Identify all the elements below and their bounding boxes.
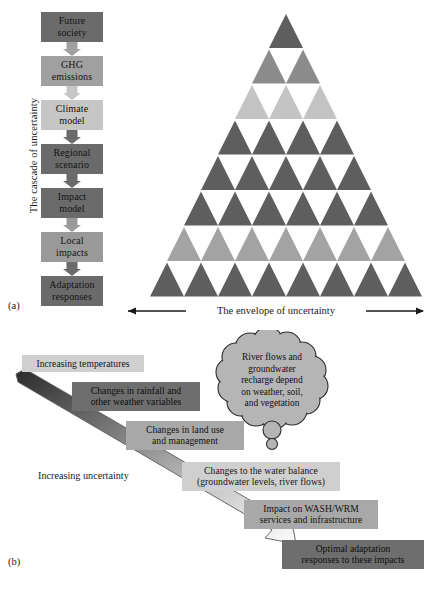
cascade-box-line1: Future xyxy=(42,15,102,27)
cascade-box-line2: emissions xyxy=(42,71,102,83)
panel-a: The cascade of uncertainty Futuresociety… xyxy=(0,0,434,330)
cascade-box-adaptation-responses: Adaptationresponses xyxy=(41,276,103,306)
cascade-box-line1: Impact xyxy=(42,191,102,203)
cascade-down-arrow-icon xyxy=(41,42,103,56)
impact-box-line2: services and infrastructure xyxy=(249,514,373,526)
impact-box-optimal-adaptation: Optimal adaptationresponses to these imp… xyxy=(282,540,424,569)
pyramid-triangle-up xyxy=(252,121,286,155)
pyramid-triangle-up xyxy=(235,156,269,190)
increasing-uncertainty-label: Increasing uncertainty xyxy=(38,470,129,481)
pyramid-triangle-up xyxy=(269,85,303,119)
impact-box-impact-wash-wrm: Impact on WASH/WRMservices and infrastru… xyxy=(244,500,378,529)
pyramid-triangle-up xyxy=(303,85,337,119)
pyramid-triangle-up xyxy=(184,263,218,297)
pyramid-triangle-up xyxy=(150,263,184,297)
thought-cloud-text: River flows andgroundwaterrecharge depen… xyxy=(241,352,303,408)
pyramid-row xyxy=(184,192,388,226)
pyramid-triangle-up xyxy=(337,156,371,190)
cascade-box-line2: model xyxy=(42,203,102,215)
cascade-down-arrow-icon xyxy=(41,174,103,188)
pyramid-triangle-up xyxy=(337,227,371,261)
cascade-box-line2: scenario xyxy=(42,159,102,171)
cascade-axis-label: The cascade of uncertainty xyxy=(28,76,39,236)
thought-cloud-line: and vegetation xyxy=(245,398,300,408)
impact-box-line2: (groundwater levels, river flows) xyxy=(187,476,335,488)
cascade-down-arrow-icon xyxy=(41,262,103,276)
cascade-down-arrow-icon xyxy=(41,218,103,232)
cascade-box-line1: Local xyxy=(42,235,102,247)
impact-box-line1: Changes in land use xyxy=(131,424,239,436)
envelope-axis: The envelope of uncertainty xyxy=(126,303,426,319)
pyramid-triangle-up xyxy=(218,121,252,155)
pyramid-row xyxy=(218,121,354,155)
pyramid-triangle-up xyxy=(252,192,286,226)
pyramid-triangle-up xyxy=(269,227,303,261)
pyramid-triangle-up xyxy=(184,192,218,226)
pyramid-row xyxy=(167,227,405,261)
pyramid-triangle-up xyxy=(252,263,286,297)
thought-cloud-line: River flows and xyxy=(242,352,302,362)
cascade-down-arrow-icon xyxy=(41,86,103,100)
pyramid-triangle-up xyxy=(388,263,422,297)
cascade-box-line2: society xyxy=(42,27,102,39)
figure-label-a: (a) xyxy=(8,300,20,311)
pyramid-row xyxy=(269,14,303,48)
impact-box-line1: Increasing temperatures xyxy=(27,358,139,370)
figure-label-b: (b) xyxy=(8,556,20,567)
envelope-axis-label: The envelope of uncertainty xyxy=(126,303,426,319)
impact-box-changes-rainfall: Changes in rainfall andother weather var… xyxy=(72,382,200,411)
pyramid-triangle-up xyxy=(286,192,320,226)
cascade-box-line2: responses xyxy=(42,291,102,303)
pyramid-triangle-up xyxy=(320,121,354,155)
impact-box-line1: Optimal adaptation xyxy=(287,543,419,555)
pyramid-row xyxy=(150,263,422,297)
pyramid-triangle-up xyxy=(303,227,337,261)
pyramid-triangle-up xyxy=(201,227,235,261)
impact-box-line1: Changes in rainfall and xyxy=(77,385,195,397)
envelope-of-uncertainty-pyramid xyxy=(150,14,422,298)
cascade-box-local-impacts: Localimpacts xyxy=(41,232,103,262)
impact-box-changes-land-use: Changes in land useand management xyxy=(126,421,244,450)
cascade-box-impact-model: Impactmodel xyxy=(41,188,103,218)
pyramid-svg xyxy=(150,14,422,298)
cascade-box-line1: Climate xyxy=(42,103,102,115)
cascade-box-climate-model: Climatemodel xyxy=(41,100,103,130)
pyramid-triangle-up xyxy=(354,192,388,226)
cascade-box-ghg-emissions: GHGemissions xyxy=(41,56,103,86)
cascade-box-future-society: Futuresociety xyxy=(41,12,103,42)
pyramid-triangle-up xyxy=(235,85,269,119)
pyramid-triangle-up xyxy=(320,192,354,226)
cascade-box-line2: impacts xyxy=(42,247,102,259)
pyramid-triangle-up xyxy=(252,50,286,84)
pyramid-row xyxy=(252,50,320,84)
pyramid-triangle-up xyxy=(286,263,320,297)
cascade-box-regional-scenario: Regionalscenario xyxy=(41,144,103,174)
pyramid-row xyxy=(201,156,371,190)
cascade-box-line1: Regional xyxy=(42,147,102,159)
thought-cloud-line: recharge depend xyxy=(241,375,303,385)
impact-box-line2: responses to these impacts xyxy=(287,554,419,566)
cascade-down-arrow-icon xyxy=(41,130,103,144)
pyramid-triangle-up xyxy=(201,156,235,190)
pyramid-triangle-up xyxy=(320,263,354,297)
impact-box-changes-water-balance: Changes to the water balance(groundwater… xyxy=(182,462,340,491)
pyramid-triangle-up xyxy=(167,227,201,261)
impact-box-line1: Changes to the water balance xyxy=(187,465,335,477)
pyramid-triangle-up xyxy=(235,227,269,261)
impact-box-line2: other weather variables xyxy=(77,396,195,408)
pyramid-triangle-up xyxy=(269,14,303,48)
pyramid-triangle-up xyxy=(218,263,252,297)
pyramid-triangle-up xyxy=(218,192,252,226)
thought-cloud-line: on weather, soil, xyxy=(241,387,303,397)
pyramid-triangle-up xyxy=(269,156,303,190)
pyramid-triangle-up xyxy=(286,50,320,84)
pyramid-triangle-up xyxy=(286,121,320,155)
pyramid-triangle-up xyxy=(371,227,405,261)
cascade-box-line1: Adaptation xyxy=(42,279,102,291)
impact-box-increasing-temperatures: Increasing temperatures xyxy=(22,355,144,372)
thought-cloud-line: groundwater xyxy=(248,364,296,374)
impact-box-line1: Impact on WASH/WRM xyxy=(249,503,373,515)
thought-cloud-bubble-1 xyxy=(263,421,281,439)
thought-cloud-bubble-2 xyxy=(267,439,278,450)
impact-box-line2: and management xyxy=(131,435,239,447)
